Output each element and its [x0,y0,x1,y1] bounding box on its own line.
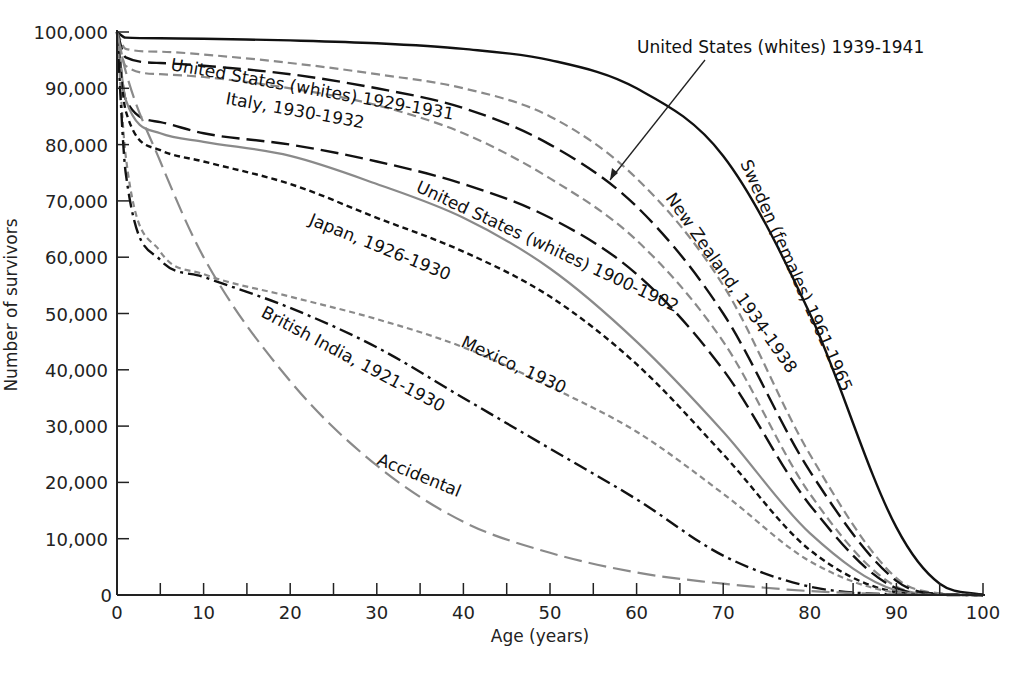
x-tick-label: 90 [885,602,908,623]
y-axis-ticks: 010,00020,00030,00040,00050,00060,00070,… [34,22,129,606]
y-tick-label: 20,000 [45,472,108,493]
x-tick-label: 40 [452,602,475,623]
label-japan: Japan, 1926-1930 [306,209,454,284]
survivorship-chart: 010,00020,00030,00040,00050,00060,00070,… [0,0,1035,681]
x-tick-label: 60 [625,602,648,623]
x-tick-label: 30 [365,602,388,623]
curves-layer [117,32,983,595]
label-british-india: British India, 1921-1930 [258,302,448,416]
y-tick-label: 60,000 [45,247,108,268]
label-mexico: Mexico, 1930 [458,331,569,397]
y-tick-label: 50,000 [45,304,108,325]
y-tick-label: 90,000 [45,78,108,99]
y-tick-label: 30,000 [45,416,108,437]
y-tick-label: 10,000 [45,529,108,550]
annotation-arrow [610,60,705,180]
x-tick-label: 50 [539,602,562,623]
y-tick-label: 40,000 [45,360,108,381]
label-us-1939-1941: United States (whites) 1939-1941 [637,37,924,57]
y-tick-label: 100,000 [34,22,108,43]
y-tick-label: 70,000 [45,191,108,212]
x-axis-ticks: 0102030405060708090100 [111,583,1000,623]
arrow-head-icon [610,168,618,180]
x-tick-label: 10 [192,602,215,623]
x-tick-label: 0 [111,602,122,623]
x-tick-label: 70 [712,602,735,623]
x-tick-label: 100 [966,602,1000,623]
y-tick-label: 80,000 [45,135,108,156]
y-axis-title: Number of survivors [1,218,21,391]
x-axis-title: Age (years) [491,626,589,646]
x-tick-label: 80 [798,602,821,623]
x-tick-label: 20 [279,602,302,623]
series-new-zealand-1934-1938 [117,32,983,595]
